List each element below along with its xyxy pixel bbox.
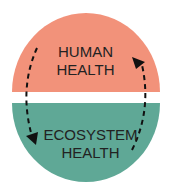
label-line: HUMAN	[0, 43, 171, 61]
human-health-label: HUMAN HEALTH	[0, 43, 171, 79]
label-line: HEALTH	[5, 144, 171, 162]
label-line: HEALTH	[0, 61, 171, 79]
label-line: ECOSYSTEM	[5, 126, 171, 144]
ecosystem-health-label: ECOSYSTEM HEALTH	[5, 126, 171, 162]
